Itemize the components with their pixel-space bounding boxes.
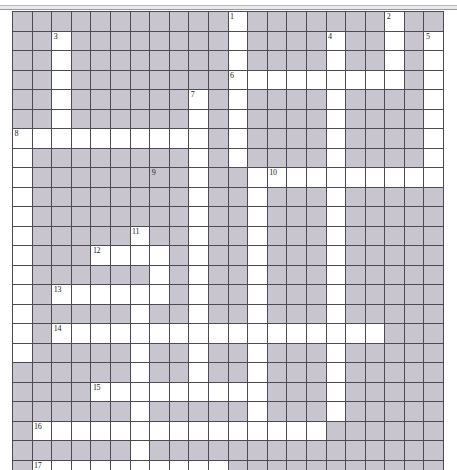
crossword-open-cell[interactable] bbox=[326, 226, 346, 246]
crossword-open-cell[interactable] bbox=[326, 304, 346, 324]
crossword-open-cell[interactable] bbox=[228, 382, 248, 402]
crossword-open-cell[interactable] bbox=[326, 109, 346, 129]
crossword-open-cell[interactable] bbox=[306, 324, 326, 344]
crossword-open-cell[interactable] bbox=[150, 324, 170, 344]
crossword-open-cell[interactable] bbox=[189, 421, 209, 441]
crossword-open-cell[interactable] bbox=[424, 168, 444, 188]
crossword-open-cell[interactable]: 5 bbox=[424, 31, 444, 51]
crossword-open-cell[interactable] bbox=[287, 421, 307, 441]
crossword-open-cell[interactable] bbox=[385, 70, 405, 90]
crossword-open-cell[interactable] bbox=[52, 421, 72, 441]
crossword-open-cell[interactable] bbox=[150, 246, 170, 266]
crossword-open-cell[interactable] bbox=[385, 168, 405, 188]
crossword-open-cell[interactable] bbox=[13, 187, 33, 207]
crossword-open-cell[interactable] bbox=[306, 421, 326, 441]
crossword-open-cell[interactable] bbox=[150, 382, 170, 402]
crossword-open-cell[interactable] bbox=[306, 70, 326, 90]
crossword-open-cell[interactable] bbox=[208, 421, 228, 441]
crossword-open-cell[interactable] bbox=[189, 109, 209, 129]
crossword-open-cell[interactable] bbox=[326, 187, 346, 207]
crossword-open-cell[interactable] bbox=[326, 129, 346, 149]
crossword-open-cell[interactable] bbox=[13, 265, 33, 285]
crossword-open-cell[interactable]: 10 bbox=[267, 168, 287, 188]
crossword-open-cell[interactable] bbox=[189, 246, 209, 266]
crossword-open-cell[interactable] bbox=[189, 265, 209, 285]
crossword-open-cell[interactable] bbox=[228, 129, 248, 149]
crossword-grid[interactable]: 1234567891011121314151617 bbox=[12, 11, 444, 470]
crossword-open-cell[interactable] bbox=[13, 343, 33, 363]
crossword-open-cell[interactable] bbox=[130, 304, 150, 324]
crossword-open-cell[interactable] bbox=[267, 421, 287, 441]
crossword-open-cell[interactable] bbox=[13, 304, 33, 324]
crossword-open-cell[interactable] bbox=[13, 168, 33, 188]
crossword-open-cell[interactable] bbox=[110, 285, 130, 305]
crossword-open-cell[interactable] bbox=[189, 168, 209, 188]
crossword-open-cell[interactable]: 17 bbox=[32, 460, 52, 470]
crossword-open-cell[interactable]: 13 bbox=[52, 285, 72, 305]
crossword-open-cell[interactable] bbox=[169, 129, 189, 149]
crossword-open-cell[interactable] bbox=[267, 70, 287, 90]
crossword-open-cell[interactable] bbox=[248, 363, 268, 383]
crossword-open-cell[interactable] bbox=[150, 460, 170, 470]
crossword-open-cell[interactable] bbox=[326, 168, 346, 188]
crossword-open-cell[interactable] bbox=[110, 246, 130, 266]
crossword-open-cell[interactable] bbox=[130, 441, 150, 461]
crossword-open-cell[interactable] bbox=[385, 51, 405, 71]
crossword-open-cell[interactable] bbox=[189, 148, 209, 168]
crossword-open-cell[interactable] bbox=[424, 70, 444, 90]
crossword-open-cell[interactable] bbox=[326, 51, 346, 71]
crossword-open-cell[interactable] bbox=[248, 70, 268, 90]
crossword-open-cell[interactable] bbox=[13, 148, 33, 168]
crossword-open-cell[interactable] bbox=[424, 90, 444, 110]
crossword-open-cell[interactable] bbox=[13, 246, 33, 266]
crossword-open-cell[interactable] bbox=[248, 168, 268, 188]
crossword-open-cell[interactable] bbox=[228, 148, 248, 168]
crossword-open-cell[interactable] bbox=[424, 109, 444, 129]
crossword-open-cell[interactable] bbox=[189, 343, 209, 363]
crossword-open-cell[interactable] bbox=[169, 460, 189, 470]
crossword-open-cell[interactable] bbox=[189, 129, 209, 149]
crossword-open-cell[interactable] bbox=[248, 187, 268, 207]
crossword-open-cell[interactable] bbox=[248, 226, 268, 246]
crossword-open-cell[interactable] bbox=[287, 168, 307, 188]
crossword-open-cell[interactable] bbox=[365, 70, 385, 90]
crossword-open-cell[interactable] bbox=[130, 324, 150, 344]
crossword-open-cell[interactable] bbox=[326, 324, 346, 344]
crossword-open-cell[interactable] bbox=[208, 460, 228, 470]
crossword-open-cell[interactable] bbox=[52, 460, 72, 470]
crossword-open-cell[interactable] bbox=[424, 51, 444, 71]
crossword-open-cell[interactable] bbox=[189, 324, 209, 344]
crossword-open-cell[interactable] bbox=[326, 70, 346, 90]
crossword-open-cell[interactable] bbox=[91, 285, 111, 305]
crossword-open-cell[interactable] bbox=[13, 226, 33, 246]
crossword-open-cell[interactable] bbox=[110, 129, 130, 149]
crossword-open-cell[interactable] bbox=[248, 324, 268, 344]
crossword-open-cell[interactable]: 1 bbox=[228, 12, 248, 32]
crossword-open-cell[interactable] bbox=[91, 324, 111, 344]
crossword-open-cell[interactable] bbox=[110, 460, 130, 470]
crossword-open-cell[interactable] bbox=[189, 187, 209, 207]
crossword-open-cell[interactable] bbox=[248, 246, 268, 266]
crossword-open-cell[interactable] bbox=[326, 207, 346, 227]
crossword-open-cell[interactable] bbox=[228, 109, 248, 129]
crossword-open-cell[interactable] bbox=[130, 421, 150, 441]
crossword-open-cell[interactable] bbox=[169, 324, 189, 344]
crossword-open-cell[interactable] bbox=[130, 363, 150, 383]
crossword-open-cell[interactable] bbox=[385, 31, 405, 51]
crossword-open-cell[interactable] bbox=[130, 285, 150, 305]
crossword-open-cell[interactable]: 4 bbox=[326, 31, 346, 51]
crossword-open-cell[interactable]: 15 bbox=[91, 382, 111, 402]
crossword-open-cell[interactable] bbox=[52, 51, 72, 71]
crossword-open-cell[interactable] bbox=[208, 324, 228, 344]
crossword-open-cell[interactable] bbox=[248, 265, 268, 285]
crossword-open-cell[interactable] bbox=[130, 382, 150, 402]
crossword-open-cell[interactable] bbox=[326, 246, 346, 266]
crossword-open-cell[interactable] bbox=[110, 324, 130, 344]
crossword-open-cell[interactable] bbox=[365, 168, 385, 188]
crossword-open-cell[interactable] bbox=[326, 148, 346, 168]
crossword-open-cell[interactable] bbox=[287, 70, 307, 90]
crossword-open-cell[interactable] bbox=[52, 109, 72, 129]
crossword-open-cell[interactable] bbox=[228, 31, 248, 51]
crossword-open-cell[interactable] bbox=[150, 285, 170, 305]
crossword-open-cell[interactable] bbox=[326, 402, 346, 422]
